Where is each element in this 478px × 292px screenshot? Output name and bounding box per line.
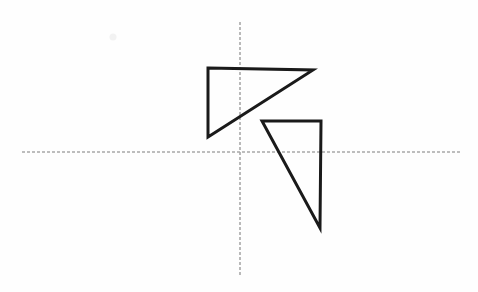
figure-background	[0, 0, 478, 292]
figure-canvas	[0, 0, 478, 292]
faint-smudge-artifact	[110, 34, 117, 41]
geometry-figure	[0, 0, 478, 292]
